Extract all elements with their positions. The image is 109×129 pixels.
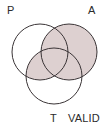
set-label-a: A: [88, 5, 95, 16]
validity-annotation: VALID: [68, 113, 100, 124]
set-label-t: T: [50, 113, 57, 124]
set-label-p: P: [7, 5, 14, 16]
venn-diagram-figure: P A T VALID: [0, 0, 109, 129]
venn-diagram-canvas: [0, 0, 109, 129]
